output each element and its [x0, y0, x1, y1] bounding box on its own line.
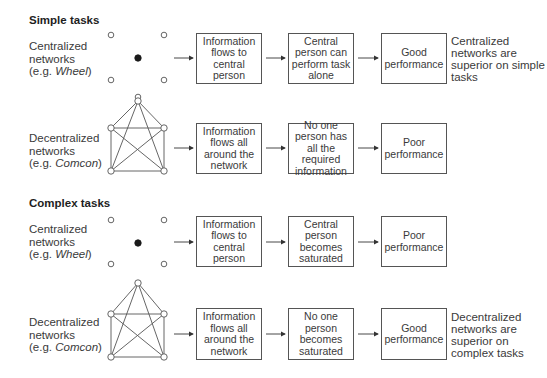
- conclusion-text-simple: Centralized networks are superior on sim…: [451, 35, 546, 83]
- comcon-network-icon: [108, 280, 167, 360]
- step-box-outcome: No one person has all the required infor…: [288, 123, 354, 174]
- step-box-performance: Good performance: [381, 308, 447, 360]
- step-box-info-flow: Information flows to central person: [196, 216, 262, 267]
- step-box-info-flow: Information flows all around the network: [196, 123, 262, 174]
- comcon-network-icon: [108, 98, 167, 174]
- wheel-network-icon: [108, 32, 167, 100]
- conclusion-text-complex: Decentralized networks are superior on c…: [451, 311, 547, 359]
- step-box-outcome: Central person becomes saturated: [288, 216, 354, 267]
- step-box-performance: Poor performance: [381, 216, 447, 267]
- wheel-network-icon: [108, 217, 167, 267]
- step-box-performance: Good performance: [381, 33, 447, 84]
- step-box-outcome: Central person can perform task alone: [288, 33, 354, 84]
- step-box-info-flow: Information flows to central person: [196, 33, 262, 84]
- step-box-info-flow: Information flows all around the network: [196, 308, 262, 360]
- arrow-icon: [174, 58, 378, 334]
- step-box-outcome: No one person becomes saturated: [288, 308, 354, 360]
- step-box-performance: Poor performance: [381, 123, 447, 174]
